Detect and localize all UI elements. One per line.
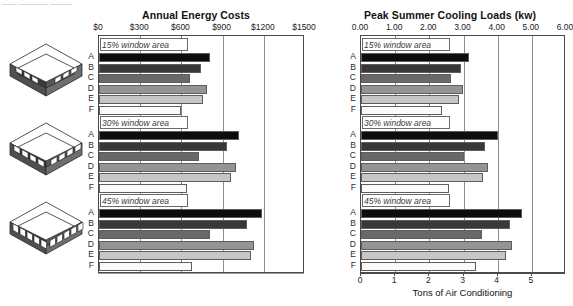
row-label: A [82, 130, 94, 139]
building-icon [2, 196, 90, 274]
bar-f [99, 262, 192, 271]
building-model-15 [2, 38, 90, 116]
x-axis-tick-label: 3 [460, 275, 465, 285]
bar-b [361, 64, 461, 73]
bar-c [99, 230, 210, 239]
bar-c [361, 74, 451, 83]
bar-f [361, 106, 442, 115]
bar-a [361, 53, 469, 62]
bar-e [99, 95, 203, 104]
building-icon [2, 117, 90, 195]
x-axis-tick-label: 2.00 [420, 22, 437, 32]
row-label: D [82, 240, 94, 249]
bar-d [99, 163, 236, 172]
bar-d [99, 241, 254, 250]
row-label: D [344, 162, 356, 171]
bar-d [99, 85, 207, 94]
chart-peak-summer-cooling-loads: Peak Summer Cooling Loads (kw) 0.001.002… [330, 0, 570, 306]
row-label: C [344, 151, 356, 160]
x-axis-tick-label: 1.00 [386, 22, 403, 32]
bar-f [361, 184, 449, 193]
bar-d [361, 241, 512, 250]
x-axis-tick-label: $1200 [251, 22, 275, 32]
row-label: F [82, 183, 94, 192]
x-axis-tick-label: $0 [93, 22, 102, 32]
bar-e [99, 251, 251, 260]
row-label: E [82, 172, 94, 181]
bar-e [99, 173, 231, 182]
row-label: A [82, 208, 94, 217]
row-label: E [82, 250, 94, 259]
row-label: C [82, 151, 94, 160]
building-model-30 [2, 117, 90, 195]
row-label: F [344, 183, 356, 192]
gridline [264, 36, 265, 272]
x-axis-tick-label: 0 [358, 275, 363, 285]
x-axis-tick-label: 6.00 [557, 22, 573, 32]
x-axis-tick-label: $300 [130, 22, 149, 32]
row-label: C [344, 73, 356, 82]
bar-b [99, 142, 227, 151]
group-label: 15% window area [102, 40, 169, 50]
group-label: 45% window area [364, 196, 431, 206]
bar-b [361, 142, 485, 151]
bar-f [99, 184, 187, 193]
group-label: 30% window area [364, 118, 431, 128]
chart-annual-energy-costs: Annual Energy Costs $0$300$600$900$1200$… [86, 0, 318, 306]
bar-a [361, 209, 522, 218]
x-axis-tick-label: $900 [212, 22, 231, 32]
row-label: F [344, 105, 356, 114]
x-axis-top: $0$300$600$900$1200$1500 [86, 22, 318, 34]
row-label: C [82, 229, 94, 238]
row-label: B [344, 141, 356, 150]
bar-f [361, 262, 476, 271]
plot-area: 15% window area30% window area45% window… [360, 35, 565, 273]
bar-c [99, 74, 190, 83]
x-axis-top: 0.001.002.003.004.005.006.00 [330, 22, 570, 34]
chart-title: Annual Energy Costs [80, 9, 312, 21]
bar-a [99, 53, 210, 62]
x-axis-tick-label: 4 [494, 275, 499, 285]
x-axis-tick-label: 5.00 [523, 22, 540, 32]
axis-baseline [98, 273, 304, 274]
row-label: D [344, 240, 356, 249]
bar-c [361, 152, 464, 161]
bar-b [361, 220, 510, 229]
row-label: D [344, 84, 356, 93]
row-label: E [82, 94, 94, 103]
x-axis-tick-label: 0.00 [352, 22, 369, 32]
row-label: A [344, 52, 356, 61]
row-label: A [82, 52, 94, 61]
bar-e [361, 173, 483, 182]
row-label: B [82, 219, 94, 228]
x-axis-tick-label: 4.00 [488, 22, 505, 32]
x-axis-tick-label: $600 [171, 22, 190, 32]
bar-b [99, 64, 201, 73]
row-label: B [344, 219, 356, 228]
row-label: D [82, 162, 94, 171]
row-label: B [344, 63, 356, 72]
gridline [498, 36, 499, 272]
bar-a [361, 131, 498, 140]
row-label: C [82, 73, 94, 82]
x-axis-tick-label: 3.00 [454, 22, 471, 32]
building-icon [2, 38, 90, 116]
bar-a [99, 209, 262, 218]
row-label: D [82, 84, 94, 93]
bar-d [361, 85, 463, 94]
x-axis-tick-label: 5 [528, 275, 533, 285]
group-label: 45% window area [102, 196, 169, 206]
row-label: F [82, 105, 94, 114]
plot-area: 15% window area30% window area45% window… [98, 35, 304, 273]
building-model-45 [2, 196, 90, 274]
bar-c [361, 230, 482, 239]
bar-e [361, 95, 459, 104]
group-label: 30% window area [102, 118, 169, 128]
row-label: F [344, 261, 356, 270]
group-label: 15% window area [364, 40, 431, 50]
gridline [223, 36, 224, 272]
x-axis-bottom: Tons of Air Conditioning 012345 [360, 273, 565, 301]
bar-e [361, 251, 506, 260]
chart-title: Peak Summer Cooling Loads (kw) [330, 9, 570, 21]
